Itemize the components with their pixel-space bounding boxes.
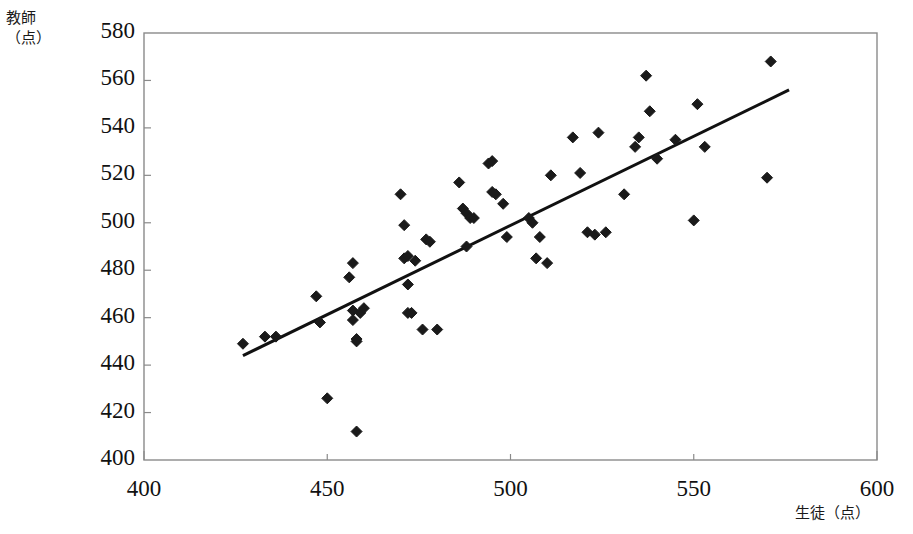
data-point xyxy=(402,279,413,290)
data-point xyxy=(259,331,270,342)
data-point xyxy=(600,227,611,238)
x-axis-tick-marks xyxy=(144,451,877,460)
data-point xyxy=(501,232,512,243)
data-point xyxy=(688,215,699,226)
data-point xyxy=(432,324,443,335)
data-point xyxy=(765,56,776,67)
data-points xyxy=(237,56,776,437)
data-point xyxy=(534,232,545,243)
data-point xyxy=(619,189,630,200)
plot-area xyxy=(0,0,913,534)
data-point xyxy=(454,177,465,188)
data-point xyxy=(237,338,248,349)
data-point xyxy=(593,127,604,138)
data-point xyxy=(347,315,358,326)
data-point xyxy=(344,272,355,283)
data-point xyxy=(417,324,428,335)
trend-line xyxy=(243,90,789,356)
data-point xyxy=(311,291,322,302)
trend-line-segment xyxy=(243,90,789,356)
data-point xyxy=(531,253,542,264)
data-point xyxy=(399,220,410,231)
data-point xyxy=(699,141,710,152)
data-point xyxy=(644,106,655,117)
scatter-chart: 教師 （点） 生徒（点） 400420440460480500520540560… xyxy=(0,0,913,534)
plot-frame-rect xyxy=(144,33,877,460)
data-point xyxy=(351,426,362,437)
y-axis-tick-marks xyxy=(144,80,151,412)
data-point xyxy=(575,167,586,178)
data-point xyxy=(641,70,652,81)
data-point xyxy=(545,170,556,181)
data-point xyxy=(567,132,578,143)
data-point xyxy=(762,172,773,183)
data-point xyxy=(395,189,406,200)
data-point xyxy=(498,198,509,209)
data-point xyxy=(692,99,703,110)
data-point xyxy=(322,393,333,404)
plot-frame xyxy=(144,33,877,460)
data-point xyxy=(542,258,553,269)
data-point xyxy=(347,258,358,269)
